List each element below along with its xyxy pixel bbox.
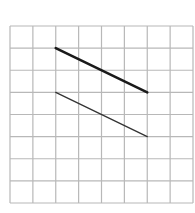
grid-diagram: [0, 0, 195, 213]
